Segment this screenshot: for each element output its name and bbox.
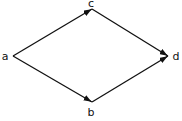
edge-c-d xyxy=(92,9,168,56)
edge-a-c xyxy=(13,9,92,56)
directed-graph xyxy=(0,0,182,121)
node-label-a: a xyxy=(2,51,9,62)
edge-a-b xyxy=(13,56,92,102)
edge-b-d xyxy=(92,56,168,102)
node-label-d: d xyxy=(173,51,180,62)
node-label-c: c xyxy=(88,0,94,9)
node-label-b: b xyxy=(88,107,95,118)
